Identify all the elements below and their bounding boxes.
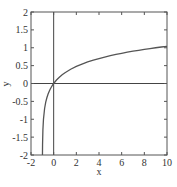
x-axis-label: x	[97, 166, 102, 177]
y-tick-label: -2	[20, 150, 28, 161]
y-tick-labels: -2-1.5-1-0.500.511.52	[12, 7, 28, 161]
x-tick-label: 2	[74, 157, 79, 168]
x-tick-label: -2	[27, 157, 35, 168]
y-tick-label: -1.5	[12, 132, 28, 143]
x-tick-label: 6	[119, 157, 124, 168]
y-tick-label: 1	[23, 42, 28, 53]
curve-layer	[42, 46, 167, 155]
y-tick-label: 0.5	[16, 60, 29, 71]
y-tick-label: -1	[20, 114, 28, 125]
y-axis-label: y	[0, 82, 11, 87]
x-tick-label: 8	[142, 157, 147, 168]
x-tick-label: 10	[162, 157, 172, 168]
y-tick-label: 0	[23, 78, 28, 89]
y-tick-label: 2	[23, 7, 28, 18]
reference-lines	[31, 12, 167, 155]
x-tick-label: 0	[51, 157, 56, 168]
series-line	[42, 46, 167, 155]
y-tick-label: -0.5	[12, 96, 28, 107]
chart: -20246810 -2-1.5-1-0.500.511.52 x y	[0, 0, 177, 187]
y-tick-label: 1.5	[16, 24, 29, 35]
